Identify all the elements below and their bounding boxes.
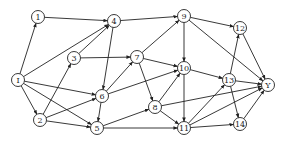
edge-9-to-Y xyxy=(189,20,263,81)
edge-7-to-10 xyxy=(143,58,177,66)
node-1: 1 xyxy=(32,11,45,24)
node-7: 7 xyxy=(131,51,144,64)
edge-I-to-1 xyxy=(20,23,36,74)
node-label: 8 xyxy=(152,103,157,112)
edge-8-to-10 xyxy=(159,73,180,102)
node-11: 11 xyxy=(178,122,191,135)
node-label: 6 xyxy=(99,92,104,101)
edge-3-to-7 xyxy=(80,57,130,58)
node-label: 1 xyxy=(35,13,40,22)
node-label: I xyxy=(16,76,19,85)
edge-12-to-Y xyxy=(243,34,265,79)
edge-9-to-12 xyxy=(190,17,233,26)
node-label: 2 xyxy=(37,116,42,125)
edge-7-to-8 xyxy=(139,63,153,101)
node-label: 13 xyxy=(224,76,234,85)
node-8: 8 xyxy=(149,101,162,114)
node-label: 10 xyxy=(179,64,189,73)
node-10: 10 xyxy=(178,62,191,75)
edge-11-to-13 xyxy=(188,85,224,124)
node-label: 3 xyxy=(71,54,76,63)
node-3: 3 xyxy=(68,52,81,65)
node-4: 4 xyxy=(108,15,121,28)
node-label: 12 xyxy=(235,24,245,33)
node-14: 14 xyxy=(234,118,247,131)
node-label: 11 xyxy=(179,124,189,133)
node-2: 2 xyxy=(34,114,47,127)
edge-13-to-Y xyxy=(235,81,261,84)
node-12: 12 xyxy=(234,22,247,35)
edge-I-to-4 xyxy=(24,24,109,76)
node-I: I xyxy=(12,74,25,87)
edge-13-to-12 xyxy=(230,34,238,73)
directed-graph: I1234567891011121314Y xyxy=(0,0,288,144)
node-label: 14 xyxy=(235,120,245,129)
edge-6-to-5 xyxy=(98,102,101,121)
node-label: 7 xyxy=(134,53,139,62)
edge-4-to-6 xyxy=(103,27,113,89)
node-Y: Y xyxy=(262,79,275,92)
node-13: 13 xyxy=(223,74,236,87)
edge-2-to-5 xyxy=(46,121,90,127)
node-9: 9 xyxy=(178,10,191,23)
edge-8-to-11 xyxy=(160,111,178,124)
node-label: 4 xyxy=(111,17,116,26)
node-label: 9 xyxy=(181,12,186,21)
node-6: 6 xyxy=(96,90,109,103)
edge-10-to-13 xyxy=(190,70,222,79)
node-label: 5 xyxy=(94,124,99,133)
node-label: Y xyxy=(264,81,271,90)
edge-4-to-9 xyxy=(120,16,177,20)
edge-5-to-8 xyxy=(103,109,149,126)
edge-11-to-14 xyxy=(190,124,233,127)
edge-14-to-Y xyxy=(244,90,264,118)
node-5: 5 xyxy=(91,122,104,135)
edge-1-to-4 xyxy=(44,17,107,20)
edge-7-to-9 xyxy=(142,20,179,52)
